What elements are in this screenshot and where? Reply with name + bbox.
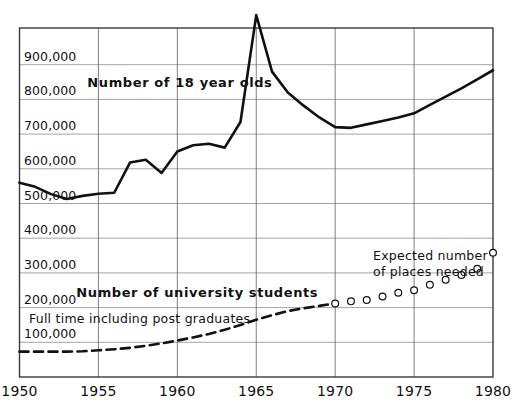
chart-figure: 100,000200,000300,000400,000500,000600,0… [0, 0, 516, 410]
full-time-label: Full time including post graduates [29, 312, 250, 327]
x-tick-label: 1955 [68, 384, 128, 398]
x-tick-label: 1960 [147, 384, 207, 398]
x-tick-label: 1970 [305, 384, 365, 398]
chart-series-layer [20, 15, 497, 352]
y-tick-label: 800,000 [24, 85, 76, 98]
y-tick-label: 700,000 [24, 120, 76, 133]
x-tick-label: 1975 [384, 384, 444, 398]
series-marker-2 [426, 281, 433, 288]
series-marker-2 [395, 289, 402, 296]
series-marker-2 [490, 249, 497, 256]
university-students-label: Number of university students [76, 285, 318, 300]
expected-places-label-line2: of places needed [373, 264, 488, 280]
chart-canvas [0, 0, 516, 410]
x-tick-label: 1980 [463, 384, 516, 398]
y-tick-label: 900,000 [24, 51, 76, 64]
series-marker-2 [363, 297, 370, 304]
y-tick-label: 500,000 [24, 190, 76, 203]
series-marker-2 [411, 287, 418, 294]
eighteen-year-olds-label: Number of 18 year olds [87, 75, 272, 90]
series-marker-2 [379, 293, 386, 300]
y-tick-label: 300,000 [24, 259, 76, 272]
y-tick-label: 600,000 [24, 155, 76, 168]
x-tick-label: 1965 [226, 384, 286, 398]
x-tick-label: 1950 [0, 384, 50, 398]
expected-places-label-line1: Expected number [373, 248, 488, 264]
y-tick-label: 400,000 [24, 224, 76, 237]
expected-places-label: Expected numberof places needed [373, 248, 488, 279]
series-marker-2 [332, 300, 339, 307]
series-marker-2 [348, 298, 355, 305]
y-tick-label: 200,000 [24, 294, 76, 307]
y-tick-label: 100,000 [24, 328, 76, 341]
